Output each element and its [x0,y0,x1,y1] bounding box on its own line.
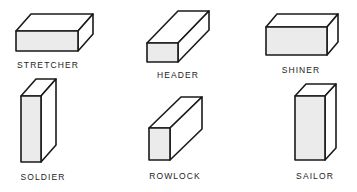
front-face [147,43,178,62]
label-stretcher: STRETCHER [17,60,79,70]
brick-soldier [21,79,56,162]
label-shiner: SHINER [282,65,321,75]
brick-stretcher [16,14,93,51]
label-rowlock: ROWLOCK [149,171,201,181]
front-face [149,128,170,160]
top-face [266,14,338,27]
front-face [16,31,78,51]
front-face [295,96,325,160]
label-sailor: SAILOR [296,171,334,181]
front-face [266,27,327,55]
brick-shiner [266,14,338,55]
brick-sailor [295,84,336,160]
brick-rowlock [149,97,202,160]
brick-diagram [0,0,357,192]
front-face [21,96,41,162]
side-face [325,84,336,160]
label-soldier: SOLDIER [20,172,65,182]
label-header: HEADER [157,70,199,80]
brick-header [147,11,209,62]
